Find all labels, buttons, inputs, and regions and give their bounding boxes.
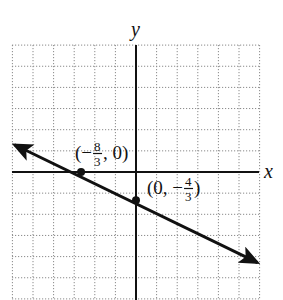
- svg-text:3: 3: [94, 154, 101, 169]
- axes: x y: [12, 18, 273, 300]
- y-intercept-label: (0, − 4 3 ): [147, 174, 200, 204]
- svg-text:(−: (−: [75, 142, 92, 164]
- x-intercept-label: (− 8 3 , 0): [75, 139, 128, 169]
- y-axis-label: y: [129, 18, 140, 41]
- svg-text:, 0): , 0): [103, 142, 128, 164]
- x-intercept-point: [77, 168, 85, 176]
- svg-text:3: 3: [185, 189, 192, 204]
- coordinate-plane-figure: x y (− 8 3 , 0) (0, − 4 3 ): [0, 0, 283, 300]
- y-intercept-point: [132, 196, 140, 204]
- svg-text:): ): [194, 177, 200, 199]
- svg-text:8: 8: [94, 139, 101, 154]
- x-axis-label: x: [263, 160, 273, 182]
- svg-text:4: 4: [185, 174, 192, 189]
- svg-text:(0, −: (0, −: [147, 177, 183, 199]
